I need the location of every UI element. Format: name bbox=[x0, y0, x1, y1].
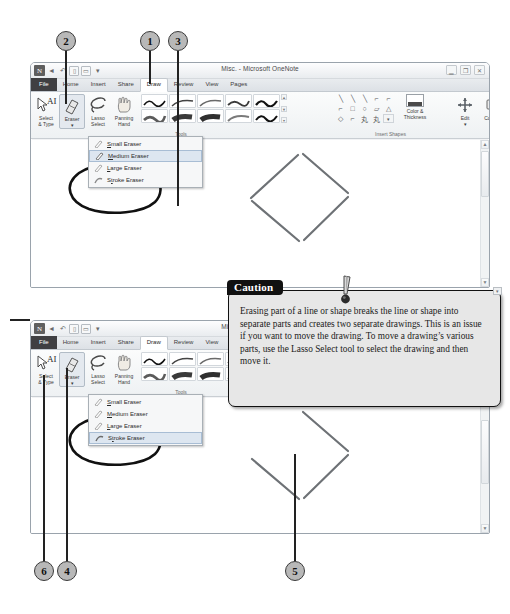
select-and-type-button[interactable]: AI Select & Type bbox=[33, 94, 59, 127]
pen-swatch[interactable] bbox=[197, 367, 224, 381]
shape-item[interactable]: ⌐ bbox=[371, 94, 382, 103]
svg-text:AI: AI bbox=[47, 354, 57, 364]
tab-draw[interactable]: Draw bbox=[140, 78, 168, 93]
scroll-up-icon[interactable]: ▲ bbox=[481, 140, 489, 149]
shapes-gallery[interactable]: ╲ ╲ ╲ ⌐ ⌐ ⌐ □ ○ ▱ △ ◇ ⌐ 丸 丸 ▾ bbox=[335, 94, 394, 123]
shape-item[interactable]: 丸 bbox=[371, 114, 382, 123]
tab-home[interactable]: Home bbox=[57, 337, 85, 350]
pen-swatch[interactable] bbox=[141, 94, 168, 108]
shape-item[interactable]: ○ bbox=[359, 104, 370, 113]
pen-swatch[interactable] bbox=[169, 109, 196, 123]
pen-swatch[interactable] bbox=[197, 352, 224, 366]
shape-item[interactable]: ╲ bbox=[359, 94, 370, 103]
menu-item-stroke-eraser[interactable]: Stroke Eraser bbox=[89, 174, 202, 186]
tab-view[interactable]: View bbox=[199, 79, 224, 92]
pen-swatch[interactable] bbox=[141, 367, 168, 381]
pen-swatch[interactable] bbox=[197, 94, 224, 108]
panning-hand-button[interactable]: Panning Hand bbox=[111, 94, 137, 127]
pen-swatch[interactable] bbox=[225, 109, 252, 123]
tab-home[interactable]: Home bbox=[57, 79, 85, 92]
pen-swatch[interactable] bbox=[169, 367, 196, 381]
tab-file[interactable]: File bbox=[31, 78, 57, 91]
tab-pages[interactable]: Pages bbox=[224, 79, 253, 92]
panning-hand-button[interactable]: Panning Hand bbox=[111, 352, 137, 385]
gallery-more-icon[interactable]: ▾ bbox=[281, 117, 287, 123]
scroll-down-icon[interactable]: ▼ bbox=[481, 278, 489, 287]
convert-button[interactable]: Convert ▾ bbox=[480, 94, 490, 127]
vertical-scrollbar-top[interactable]: ▲ ▼ bbox=[480, 140, 489, 287]
menu-item-stroke-eraser[interactable]: Stroke Eraser bbox=[89, 432, 202, 444]
dropdown-arrow[interactable]: ▾ bbox=[71, 380, 74, 386]
menu-item-large-eraser[interactable]: Large Eraser bbox=[89, 420, 202, 432]
tab-insert[interactable]: Insert bbox=[85, 337, 112, 350]
callout-number: 5 bbox=[292, 565, 298, 577]
shape-item[interactable]: ◇ bbox=[335, 114, 346, 123]
dropdown-arrow[interactable]: ▾ bbox=[464, 121, 467, 127]
shape-item[interactable]: 丸 bbox=[359, 114, 370, 123]
onenote-window-top[interactable]: N ◄ ↶ ▯ ▭ ▾ Misc. - Microsoft OneNote ▁ … bbox=[30, 62, 490, 288]
tab-draw[interactable]: Draw bbox=[140, 336, 168, 351]
select-and-type-button[interactable]: AI Select & Type bbox=[33, 352, 59, 385]
menu-item-large-eraser[interactable]: Large Eraser bbox=[89, 162, 202, 174]
tab-view[interactable]: View bbox=[199, 337, 224, 350]
menu-item-small-eraser[interactable]: Small Eraser bbox=[89, 396, 202, 408]
pen-swatch[interactable] bbox=[141, 352, 168, 366]
dropdown-arrow[interactable]: ▾ bbox=[71, 122, 74, 128]
large-eraser-icon bbox=[93, 164, 103, 173]
shapes-more-icon[interactable]: ▾ bbox=[383, 114, 394, 123]
tab-file[interactable]: File bbox=[31, 336, 57, 349]
vertical-scrollbar-bottom[interactable]: ▲ ▼ bbox=[480, 398, 489, 533]
pen-swatch[interactable] bbox=[141, 109, 168, 123]
eraser-button[interactable]: Eraser ▾ bbox=[59, 352, 85, 387]
edit-button[interactable]: Edit ▾ bbox=[452, 94, 478, 127]
tab-insert[interactable]: Insert bbox=[85, 79, 112, 92]
lasso-select-button[interactable]: Lasso Select bbox=[85, 352, 111, 385]
pen-swatch[interactable] bbox=[225, 94, 252, 108]
exclamation-point-icon bbox=[333, 275, 359, 305]
window-controls[interactable]: ▁ ❐ ✕ bbox=[446, 65, 485, 75]
pen-swatch[interactable] bbox=[169, 352, 196, 366]
tab-share[interactable]: Share bbox=[112, 79, 140, 92]
shape-item[interactable]: ⌐ bbox=[335, 104, 346, 113]
shape-item[interactable]: ╲ bbox=[347, 94, 358, 103]
scrollbar-thumb[interactable] bbox=[481, 420, 489, 484]
restore-icon[interactable]: ❐ bbox=[460, 65, 471, 75]
tab-share[interactable]: Share bbox=[112, 337, 140, 350]
menu-item-medium-eraser[interactable]: Medium Eraser bbox=[89, 408, 202, 420]
scroll-down-icon[interactable]: ▼ bbox=[281, 106, 287, 112]
pen-swatch[interactable] bbox=[253, 109, 280, 123]
tab-review[interactable]: Review bbox=[168, 337, 200, 350]
lasso-select-button[interactable]: Lasso Select bbox=[85, 94, 111, 127]
color-and-thickness-button[interactable]: Color & Thickness bbox=[398, 94, 432, 120]
scrollbar-thumb[interactable] bbox=[481, 151, 489, 197]
scroll-up-icon[interactable]: ▲ bbox=[281, 94, 287, 100]
collapse-pane-icon[interactable]: ▾ bbox=[493, 287, 502, 295]
shape-item[interactable]: ⌐ bbox=[347, 114, 358, 123]
ribbon-tabs[interactable]: File Home Insert Share Draw Review View … bbox=[31, 79, 489, 92]
menu-item-label: Stroke Eraser bbox=[107, 177, 144, 183]
shape-item[interactable]: ⌐ bbox=[383, 94, 394, 103]
menu-item-label: Small Eraser bbox=[107, 399, 141, 405]
shape-item[interactable]: △ bbox=[383, 104, 394, 113]
shape-item[interactable]: □ bbox=[347, 104, 358, 113]
pen-swatch[interactable] bbox=[169, 94, 196, 108]
menu-item-medium-eraser[interactable]: Medium Eraser bbox=[89, 150, 202, 162]
callout-leader-4 bbox=[66, 368, 68, 561]
eraser-button[interactable]: Eraser ▾ bbox=[59, 94, 85, 129]
minimize-icon[interactable]: ▁ bbox=[446, 65, 457, 75]
close-icon[interactable]: ✕ bbox=[474, 65, 485, 75]
pen-swatch[interactable] bbox=[197, 109, 224, 123]
small-eraser-icon bbox=[93, 398, 103, 407]
menu-item-small-eraser[interactable]: Small Eraser bbox=[89, 138, 202, 150]
scroll-down-icon[interactable]: ▼ bbox=[481, 524, 489, 533]
eraser-dropdown-menu-bottom[interactable]: Small Eraser Medium Eraser Large Eraser … bbox=[88, 394, 203, 446]
pen-gallery[interactable]: ▲ ▼ ▾ bbox=[141, 94, 287, 123]
eraser-dropdown-menu-top[interactable]: Small Eraser Medium Eraser Large Eraser … bbox=[88, 136, 203, 188]
menu-item-label: Large Eraser bbox=[107, 423, 142, 429]
shape-item[interactable]: ╲ bbox=[335, 94, 346, 103]
pen-gallery-scroll[interactable]: ▲ ▼ ▾ bbox=[281, 94, 287, 123]
tab-review[interactable]: Review bbox=[168, 79, 200, 92]
group-label-insert-shapes: Insert Shapes bbox=[333, 131, 448, 138]
shape-item[interactable]: ▱ bbox=[371, 104, 382, 113]
pen-swatch[interactable] bbox=[253, 94, 280, 108]
